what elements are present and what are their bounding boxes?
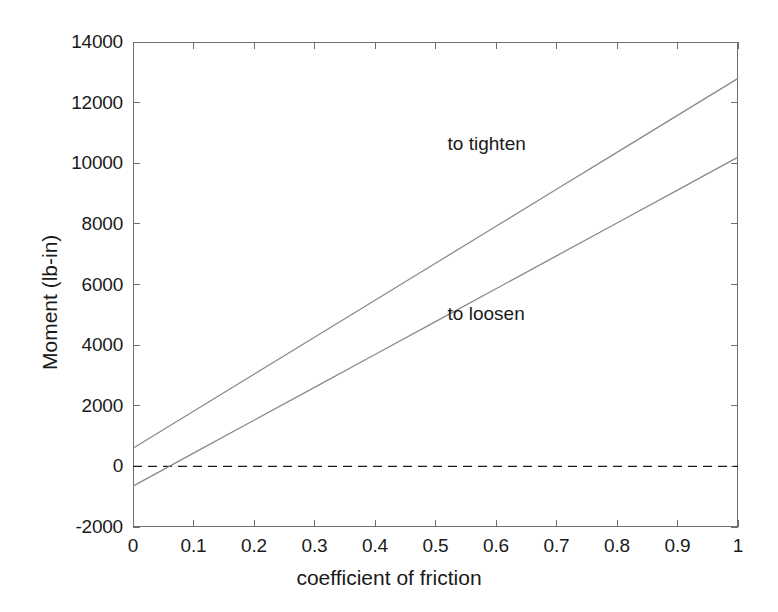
data-lines-svg: [133, 42, 738, 527]
moment-vs-friction-chart: 00.10.20.30.40.50.60.70.80.91-2000020004…: [0, 0, 778, 612]
x-tick-label: 0.9: [665, 535, 691, 557]
x-tick-label: 0.1: [181, 535, 207, 557]
y-axis-title: Moment (lb-in): [38, 235, 62, 370]
y-tick-label: 12000: [0, 92, 123, 114]
y-tick-label: 14000: [0, 31, 123, 53]
x-axis-title: coefficient of friction: [0, 566, 778, 590]
x-tick-label: 0.8: [604, 535, 630, 557]
series-line-to-loosen: [133, 157, 738, 486]
y-tick-label: 8000: [0, 213, 123, 235]
x-tick-label: 0.6: [483, 535, 509, 557]
x-tick-label: 0.2: [241, 535, 267, 557]
curve-annotation-to-tighten: to tighten: [448, 133, 526, 155]
x-tick-label: 0.4: [362, 535, 388, 557]
x-tick-label: 0.7: [544, 535, 570, 557]
y-tick-label: 10000: [0, 152, 123, 174]
x-tick-label: 1: [733, 535, 743, 557]
curve-annotation-to-loosen: to loosen: [448, 303, 525, 325]
y-tick-label: 0: [0, 455, 123, 477]
series-line-to-tighten: [133, 78, 738, 448]
x-tick-label: 0.3: [302, 535, 328, 557]
y-tick-label: 2000: [0, 395, 123, 417]
x-tick-label: 0.5: [423, 535, 449, 557]
x-tick-label: 0: [128, 535, 138, 557]
y-tick-label: -2000: [0, 516, 123, 538]
